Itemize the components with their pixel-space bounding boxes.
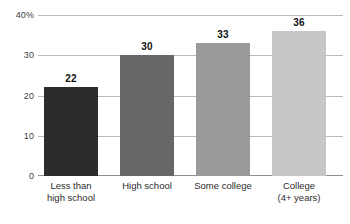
x-label-less-than-high-school: Less than high school <box>34 180 108 204</box>
x-label-line-1: College <box>283 180 315 191</box>
bar-group-some-college: 33 <box>196 15 250 176</box>
bar-value-high-school: 30 <box>120 41 174 52</box>
x-label-line-1: High school <box>122 180 172 191</box>
bar-group-less-than-high-school: 22 <box>44 15 98 176</box>
x-label-college: College (4+ years) <box>262 180 336 204</box>
plot-area: 22 30 33 36 <box>38 15 343 176</box>
bar-college[interactable] <box>272 31 326 176</box>
x-label-line-1: Some college <box>194 180 252 191</box>
y-tick-label-20: 20 <box>0 91 34 101</box>
bar-group-high-school: 30 <box>120 15 174 176</box>
x-axis-category-labels: Less than high school High school Some c… <box>38 180 343 224</box>
bar-value-some-college: 33 <box>196 29 250 40</box>
x-label-high-school: High school <box>110 180 184 192</box>
bar-some-college[interactable] <box>196 43 250 176</box>
x-label-line-2: high school <box>34 192 108 204</box>
y-tick-label-10: 10 <box>0 131 34 141</box>
bars: 22 30 33 36 <box>38 15 343 176</box>
y-tick-label-30: 30 <box>0 50 34 60</box>
x-label-line-1: Less than <box>50 180 91 191</box>
x-label-some-college: Some college <box>186 180 260 192</box>
bar-group-college: 36 <box>272 15 326 176</box>
bar-value-college: 36 <box>272 17 326 28</box>
y-tick-label-0: 0 <box>0 171 34 181</box>
bar-less-than-high-school[interactable] <box>44 87 98 176</box>
bar-value-less-than-high-school: 22 <box>44 73 98 84</box>
x-label-line-2: (4+ years) <box>262 192 336 204</box>
bar-chart: 40% 30 20 10 0 22 30 33 <box>0 0 350 224</box>
bar-high-school[interactable] <box>120 55 174 176</box>
y-tick-label-40: 40% <box>0 10 34 20</box>
